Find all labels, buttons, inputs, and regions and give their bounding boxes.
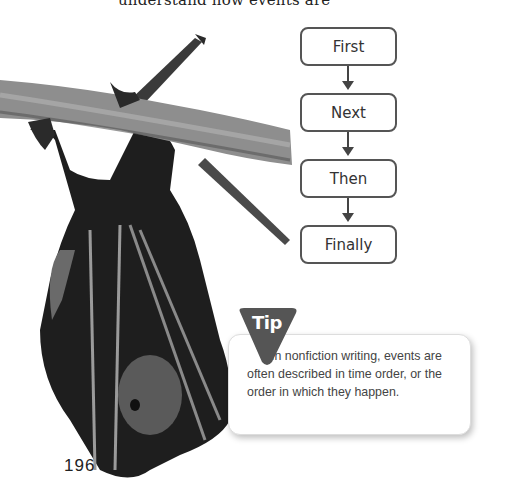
flow-step-finally: Finally	[300, 225, 397, 264]
down-arrow-icon	[300, 132, 397, 159]
flow-step-label: Finally	[325, 236, 373, 254]
page-number: 196	[64, 456, 95, 476]
down-arrow-icon	[300, 66, 397, 93]
sequence-flowchart: First Next Then Finally	[300, 27, 398, 264]
tip-badge-label: Tip	[252, 312, 282, 333]
flow-step-then: Then	[300, 159, 397, 198]
flow-step-label: Next	[331, 104, 366, 122]
flow-step-first: First	[300, 27, 397, 66]
flow-step-label: Then	[330, 170, 367, 188]
flow-step-label: First	[333, 38, 365, 56]
flow-step-next: Next	[300, 93, 397, 132]
down-arrow-icon	[300, 198, 397, 225]
